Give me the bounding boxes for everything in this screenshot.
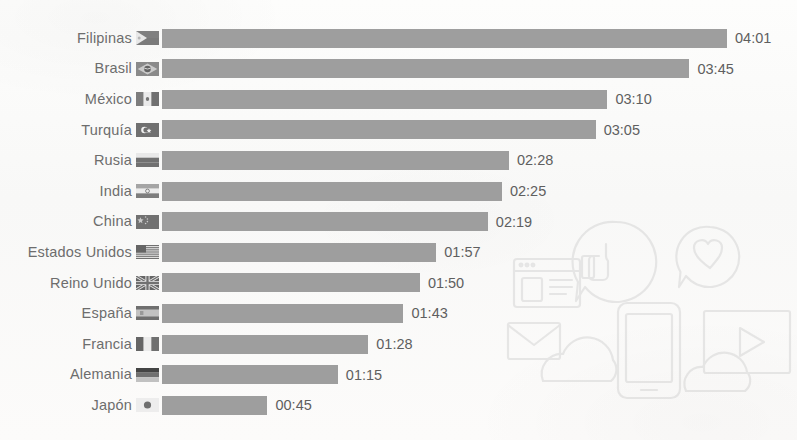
chart-bar	[162, 335, 368, 354]
chart-bar	[162, 29, 727, 48]
bar-value-label: 00:45	[275, 398, 311, 413]
bar-value-label: 02:25	[510, 184, 546, 199]
chart-bar	[162, 212, 488, 231]
bar-value-label: 01:57	[444, 245, 480, 260]
chart-row: Alemania01:15	[0, 363, 797, 387]
chart-row: México03:10	[0, 87, 797, 111]
bar-track: 02:25	[162, 182, 797, 201]
flag-france-icon	[136, 337, 159, 351]
bar-track: 03:05	[162, 120, 797, 139]
flag-cell	[132, 92, 162, 106]
bar-value-label: 03:10	[615, 92, 651, 107]
country-label: Estados Unidos	[0, 245, 132, 260]
flag-russia-icon	[136, 153, 159, 167]
country-label: México	[0, 92, 132, 107]
flag-china-icon	[136, 215, 159, 229]
bar-value-label: 02:28	[517, 153, 553, 168]
bar-value-label: 03:05	[604, 123, 640, 138]
chart-bar	[162, 243, 436, 262]
flag-cell	[132, 337, 162, 351]
bar-value-label: 02:19	[496, 214, 532, 229]
bar-track: 04:01	[162, 29, 797, 48]
bar-track: 03:45	[162, 59, 797, 78]
chart-row: China02:19	[0, 210, 797, 234]
country-label: India	[0, 184, 132, 199]
bar-track: 02:28	[162, 151, 797, 170]
flag-cell	[132, 123, 162, 137]
bar-value-label: 01:15	[346, 367, 382, 382]
bar-track: 01:57	[162, 243, 797, 262]
flag-cell	[132, 276, 162, 290]
chart-row: Francia01:28	[0, 332, 797, 356]
bar-value-label: 01:28	[376, 337, 412, 352]
flag-cell	[132, 31, 162, 45]
bar-chart: Filipinas04:01Brasil03:45México03:10Turq…	[0, 0, 797, 440]
chart-bar	[162, 59, 689, 78]
chart-bar	[162, 396, 267, 415]
chart-row: Reino Unido01:50	[0, 271, 797, 295]
chart-row: Turquía03:05	[0, 118, 797, 142]
flag-cell	[132, 398, 162, 412]
flag-usa-icon	[136, 245, 159, 259]
flag-turkey-icon	[136, 123, 159, 137]
flag-germany-icon	[136, 368, 159, 382]
bar-track: 02:19	[162, 212, 797, 231]
bar-value-label: 04:01	[735, 31, 771, 46]
bar-track: 01:15	[162, 365, 797, 384]
flag-cell	[132, 153, 162, 167]
chart-row: India02:25	[0, 179, 797, 203]
bar-track: 01:28	[162, 335, 797, 354]
flag-philippines-icon	[136, 31, 159, 45]
country-label: Francia	[0, 337, 132, 352]
flag-brazil-icon	[136, 62, 159, 76]
flag-cell	[132, 184, 162, 198]
flag-cell	[132, 215, 162, 229]
chart-row: Brasil03:45	[0, 57, 797, 81]
country-label: Filipinas	[0, 31, 132, 46]
chart-bar	[162, 365, 338, 384]
country-label: Alemania	[0, 367, 132, 382]
flag-mexico-icon	[136, 92, 159, 106]
flag-cell	[132, 245, 162, 259]
bar-track: 00:45	[162, 396, 797, 415]
bar-track: 03:10	[162, 90, 797, 109]
country-label: China	[0, 214, 132, 229]
chart-bar	[162, 273, 420, 292]
flag-spain-icon	[136, 306, 159, 320]
country-label: Japón	[0, 398, 132, 413]
bar-track: 01:50	[162, 273, 797, 292]
bar-value-label: 03:45	[697, 61, 733, 76]
chart-bar	[162, 120, 596, 139]
chart-row: Rusia02:28	[0, 148, 797, 172]
chart-bar	[162, 151, 509, 170]
country-label: Reino Unido	[0, 276, 132, 291]
chart-bar	[162, 90, 607, 109]
chart-row: Estados Unidos01:57	[0, 240, 797, 264]
flag-cell	[132, 368, 162, 382]
chart-bar	[162, 304, 403, 323]
flag-india-icon	[136, 184, 159, 198]
country-label: Rusia	[0, 153, 132, 168]
chart-row: Filipinas04:01	[0, 26, 797, 50]
country-label: España	[0, 306, 132, 321]
bar-track: 01:43	[162, 304, 797, 323]
chart-row: Japón00:45	[0, 393, 797, 417]
chart-bar	[162, 182, 502, 201]
country-label: Brasil	[0, 61, 132, 76]
flag-cell	[132, 62, 162, 76]
bar-value-label: 01:43	[411, 306, 447, 321]
flag-uk-icon	[136, 276, 159, 290]
flag-cell	[132, 306, 162, 320]
bar-value-label: 01:50	[428, 276, 464, 291]
country-label: Turquía	[0, 123, 132, 138]
chart-row: España01:43	[0, 301, 797, 325]
flag-japan-icon	[136, 398, 159, 412]
